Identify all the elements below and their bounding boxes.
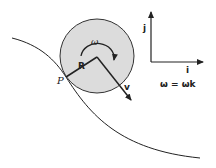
equation-label: ω = ωk	[160, 80, 195, 89]
rolling-disk	[60, 19, 134, 93]
radius-label: R	[78, 62, 85, 71]
i-axis-label: i	[186, 66, 189, 75]
omega-label: ω	[91, 38, 98, 47]
velocity-label: v	[124, 83, 130, 92]
point-label: P	[57, 76, 64, 86]
j-axis-label: j	[143, 24, 146, 33]
